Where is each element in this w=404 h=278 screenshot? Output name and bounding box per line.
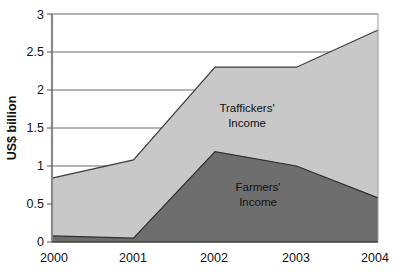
x-tick-label-2002: 2002	[200, 251, 228, 265]
traffickers-income-label-line1: Traffickers'	[219, 102, 274, 114]
farmers-income-label-line1: Farmers'	[235, 181, 280, 193]
chart-canvas: 0 0.5 1 1.5 2 2.5 3 US$ billion 2000 200…	[0, 0, 404, 278]
y-tick-label-1-5: 1.5	[27, 121, 44, 135]
x-tick-label-2003: 2003	[282, 251, 310, 265]
y-tick-label-1: 1	[37, 159, 44, 173]
farmers-income-label-line2: Income	[239, 196, 277, 208]
y-axis-title: US$ billion	[5, 96, 19, 161]
y-tick-label-2: 2	[37, 83, 44, 97]
y-tick-label-3: 3	[37, 8, 44, 22]
area-chart: 0 0.5 1 1.5 2 2.5 3 US$ billion 2000 200…	[0, 0, 404, 278]
y-tick-label-0-5: 0.5	[27, 197, 44, 211]
y-tick-label-2-5: 2.5	[27, 45, 44, 59]
traffickers-income-label-line2: Income	[228, 117, 266, 129]
x-tick-label-2004: 2004	[361, 251, 389, 265]
y-tick-label-0: 0	[37, 235, 44, 249]
x-tick-label-2000: 2000	[40, 251, 68, 265]
x-tick-label-2001: 2001	[119, 251, 147, 265]
